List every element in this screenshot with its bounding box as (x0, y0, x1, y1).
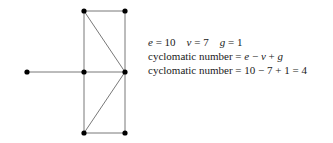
component-count-value: = 1 (225, 36, 242, 48)
graph-vertex (122, 69, 127, 74)
graph-vertex (81, 8, 86, 13)
edge-count-value: = 10 (153, 36, 176, 48)
graph-vertex (122, 8, 127, 13)
graph-diagram (0, 0, 160, 143)
graph-edge (84, 11, 125, 72)
graph-vertex (122, 130, 127, 135)
vertex-count-value: = 7 (192, 36, 209, 48)
graph-vertex (81, 130, 86, 135)
formula-minus: − (249, 50, 261, 62)
formula-g: g (278, 50, 284, 62)
formula-line: cyclomatic number = e − v + g (148, 50, 283, 63)
graph-vertex (24, 69, 29, 74)
formula-plus: + (266, 50, 278, 62)
graph-edge (84, 72, 125, 133)
formula-prefix: cyclomatic number = (148, 50, 244, 62)
result-line: cyclomatic number = 10 − 7 + 1 = 4 (148, 64, 307, 77)
graph-vertex (81, 69, 86, 74)
counts-line: e = 10 v = 7 g = 1 (148, 36, 242, 49)
